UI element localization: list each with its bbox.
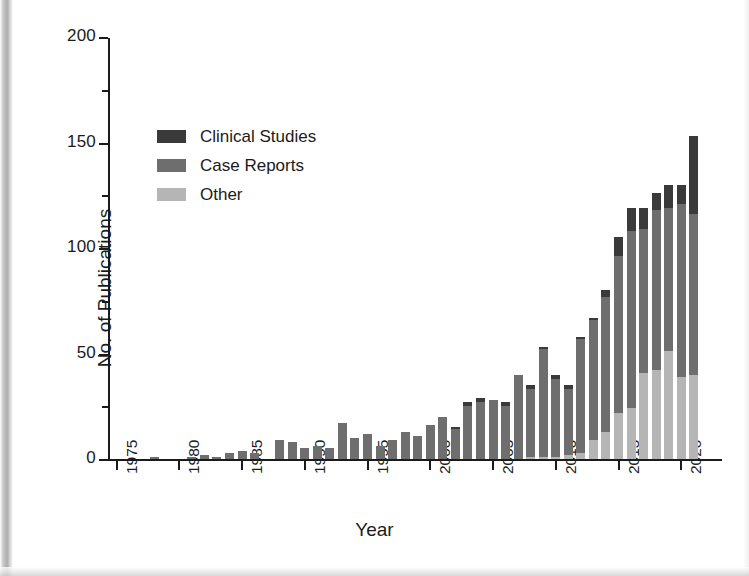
bar-segment-1983-case-reports — [212, 457, 221, 459]
bar-segment-2019-other — [664, 351, 673, 459]
x-tick-1975 — [116, 461, 118, 470]
bar-segment-2013-case-reports — [589, 320, 598, 440]
bar-segment-1982-case-reports — [200, 455, 209, 459]
bar-2019[interactable] — [664, 185, 673, 459]
bar-segment-2011-clinical-studies — [564, 385, 573, 389]
bar-1988[interactable] — [275, 440, 284, 459]
bar-segment-2005-case-reports — [489, 400, 498, 459]
bar-segment-2006-case-reports — [501, 406, 510, 459]
y-tick-label-150: 150 — [44, 132, 96, 152]
bar-1993[interactable] — [338, 423, 347, 459]
bar-2020[interactable] — [677, 185, 686, 459]
bar-2008[interactable] — [526, 385, 535, 459]
bar-segment-2008-clinical-studies — [526, 385, 535, 389]
legend-item-case_reports[interactable]: Case Reports — [157, 151, 316, 180]
bar-1995[interactable] — [363, 434, 372, 459]
bar-2007[interactable] — [514, 375, 523, 459]
legend-item-other[interactable]: Other — [157, 180, 316, 209]
y-tick-200 — [99, 37, 108, 39]
bar-segment-2011-other — [564, 455, 573, 459]
bar-1982[interactable] — [200, 455, 209, 459]
bar-1985[interactable] — [238, 451, 247, 459]
bar-1986[interactable] — [250, 453, 259, 459]
y-minor-tick-75 — [102, 301, 108, 303]
bar-segment-1985-case-reports — [238, 451, 247, 459]
bar-segment-2014-clinical-studies — [601, 290, 610, 296]
bar-2012[interactable] — [576, 337, 585, 459]
bar-1983[interactable] — [212, 457, 221, 459]
bar-2018[interactable] — [652, 193, 661, 459]
bar-2005[interactable] — [489, 400, 498, 459]
bar-segment-2013-clinical-studies — [589, 318, 598, 320]
bar-segment-1994-case-reports — [350, 438, 359, 459]
bar-1990[interactable] — [300, 448, 309, 459]
bar-segment-2011-case-reports — [564, 389, 573, 454]
bar-segment-2010-case-reports — [551, 379, 560, 457]
x-tick-1980 — [178, 461, 180, 470]
bar-segment-2016-clinical-studies — [627, 208, 636, 231]
bar-segment-2017-clinical-studies — [639, 208, 648, 229]
bar-1981[interactable] — [187, 457, 196, 459]
bar-1998[interactable] — [401, 432, 410, 459]
bar-segment-2015-case-reports — [614, 256, 623, 412]
legend-swatch-clinical_studies — [157, 130, 186, 143]
x-axis-title: Year — [0, 519, 749, 541]
legend-label-other: Other — [200, 185, 243, 205]
bar-2001[interactable] — [438, 417, 447, 459]
bar-1994[interactable] — [350, 438, 359, 459]
bar-1992[interactable] — [325, 448, 334, 459]
bar-1999[interactable] — [413, 436, 422, 459]
bar-2006[interactable] — [501, 402, 510, 459]
bar-segment-2018-other — [652, 370, 661, 459]
bar-2004[interactable] — [476, 398, 485, 459]
bar-2013[interactable] — [589, 318, 598, 459]
y-axis-line — [108, 38, 110, 461]
bar-segment-2009-case-reports — [539, 349, 548, 457]
bar-1989[interactable] — [288, 442, 297, 459]
bar-segment-1978-case-reports — [150, 457, 159, 459]
x-tick-2005 — [492, 461, 494, 470]
bar-2003[interactable] — [463, 402, 472, 459]
bar-2011[interactable] — [564, 385, 573, 459]
bar-segment-1997-case-reports — [388, 440, 397, 459]
plot-area: 050100150200 197519801985199019952000200… — [108, 38, 722, 460]
y-tick-label-0: 0 — [44, 448, 96, 468]
bar-2000[interactable] — [426, 425, 435, 459]
bar-2002[interactable] — [451, 427, 460, 459]
legend-item-clinical_studies[interactable]: Clinical Studies — [157, 122, 316, 151]
bar-1984[interactable] — [225, 453, 234, 459]
y-tick-label-50: 50 — [44, 343, 96, 363]
bar-1978[interactable] — [150, 457, 159, 459]
x-tick-label-1975: 1975 — [123, 440, 141, 474]
bar-1996[interactable] — [376, 446, 385, 459]
bar-segment-2003-case-reports — [463, 406, 472, 459]
bar-segment-2003-clinical-studies — [463, 402, 472, 406]
bar-segment-2017-other — [639, 373, 648, 460]
bar-segment-1998-case-reports — [401, 432, 410, 459]
bar-segment-2015-clinical-studies — [614, 237, 623, 256]
bar-2015[interactable] — [614, 237, 623, 459]
bar-segment-1981-case-reports — [187, 457, 196, 459]
bar-segment-2006-clinical-studies — [501, 402, 510, 406]
bar-1997[interactable] — [388, 440, 397, 459]
bar-segment-2021-other — [689, 375, 698, 459]
bar-segment-2012-clinical-studies — [576, 337, 585, 339]
y-minor-tick-125 — [102, 195, 108, 197]
bar-1991[interactable] — [313, 446, 322, 459]
y-tick-label-200: 200 — [44, 26, 96, 46]
bar-segment-2014-case-reports — [601, 297, 610, 432]
bar-2016[interactable] — [627, 208, 636, 459]
bar-2014[interactable] — [601, 290, 610, 459]
bar-segment-2017-case-reports — [639, 229, 648, 372]
legend-swatch-other — [157, 188, 186, 201]
bar-segment-2012-case-reports — [576, 339, 585, 453]
bar-2021[interactable] — [689, 136, 698, 459]
bar-2010[interactable] — [551, 375, 560, 459]
bar-segment-1995-case-reports — [363, 434, 372, 459]
legend-label-case_reports: Case Reports — [200, 156, 304, 176]
bar-segment-2002-clinical-studies — [451, 427, 460, 429]
bar-2017[interactable] — [639, 208, 648, 459]
bar-2009[interactable] — [539, 347, 548, 459]
x-tick-1995 — [367, 461, 369, 470]
stacked-bar-chart-figure: No. of Publications Year 050100150200 19… — [0, 0, 749, 576]
